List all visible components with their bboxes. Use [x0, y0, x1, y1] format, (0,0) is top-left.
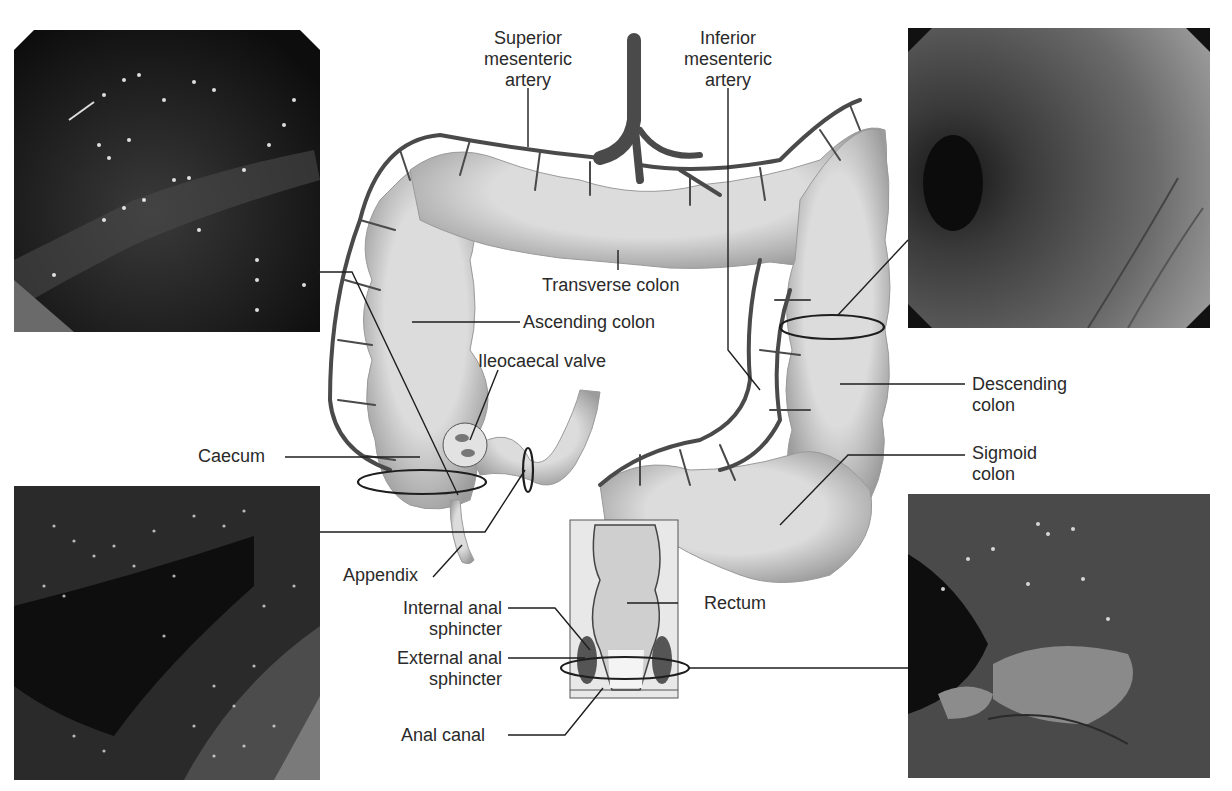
label-external-anal-sphincter: External anal sphincter	[368, 648, 502, 690]
label-sigmoid-colon: Sigmoid colon	[972, 443, 1037, 485]
terminal-ileum-shape	[470, 390, 600, 485]
label-superior-mesenteric-artery: Superior mesenteric artery	[478, 28, 578, 91]
label-transverse-colon: Transverse colon	[542, 275, 679, 296]
label-ileocaecal-valve: Ileocaecal valve	[478, 351, 606, 372]
label-descending-colon: Descending colon	[972, 374, 1067, 416]
label-internal-anal-sphincter: Internal anal sphincter	[368, 598, 502, 640]
colon	[364, 128, 891, 583]
label-ascending-colon: Ascending colon	[523, 312, 655, 333]
label-anal-canal: Anal canal	[401, 725, 485, 746]
anatomy-figure: Superior mesenteric artery Inferior mese…	[0, 0, 1232, 791]
aorta-trunk	[600, 40, 634, 158]
ileocaecal-valve-detail	[443, 423, 487, 467]
label-rectum: Rectum	[704, 593, 766, 614]
rectum-inset	[570, 520, 678, 698]
label-inferior-mesenteric-artery: Inferior mesenteric artery	[678, 28, 778, 91]
label-appendix: Appendix	[343, 565, 418, 586]
label-caecum: Caecum	[198, 446, 265, 467]
